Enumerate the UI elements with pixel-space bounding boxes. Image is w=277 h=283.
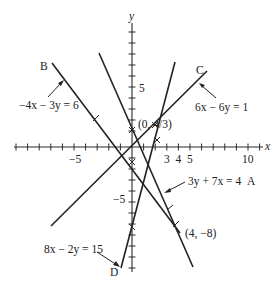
point-label-4-neg8: (4, −8) <box>185 227 217 240</box>
coordinate-plane: x −5 3 4 5 10 <box>0 0 277 283</box>
y-tick-label-neg5: −5 <box>113 193 125 205</box>
point-label-0-4-3: (0, 4/3) <box>138 118 172 131</box>
line-d: D 8x − 2y = 15 <box>44 62 175 278</box>
x-tick-label-3: 3 <box>164 153 170 165</box>
y-axis-label: y <box>128 10 135 23</box>
line-c-letter: C <box>196 64 204 76</box>
line-c-equation: 6x − 6y = 1 <box>195 101 248 114</box>
line-b-equation: −4x − 3y = 6 <box>19 99 79 112</box>
line-d-equation: 8x − 2y = 15 <box>44 243 103 256</box>
line-b-letter: B <box>40 60 48 72</box>
x-axis-label: x <box>264 140 271 152</box>
line-d-pointer-arrow <box>97 252 117 265</box>
x-tick-label-neg5: −5 <box>69 153 81 165</box>
y-axis: y 5 −5 <box>113 10 145 272</box>
linear-equations-diagram: x −5 3 4 5 10 <box>0 0 277 283</box>
y-tick-label-5: 5 <box>139 82 145 94</box>
line-a-equation: 3y + 7x = 4 <box>188 175 241 188</box>
line-d-letter: D <box>110 266 118 278</box>
line-a-letter: A <box>247 175 256 187</box>
line-c: C 6x − 6y = 1 <box>51 64 248 226</box>
x-tick-label-5: 5 <box>187 153 193 165</box>
line-c-pointer-arrow <box>201 85 216 98</box>
x-tick-label-10: 10 <box>242 153 254 165</box>
x-tick-label-4: 4 <box>176 153 182 165</box>
